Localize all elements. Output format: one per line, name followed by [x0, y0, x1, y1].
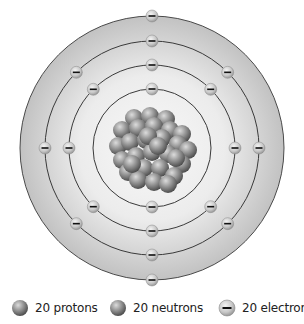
- neutron-icon: [109, 299, 127, 317]
- electron-icon: [87, 201, 99, 213]
- nucleon-sphere: [129, 171, 147, 189]
- electron-icon: [63, 142, 75, 154]
- legend-item-electrons: 20 electrons: [218, 298, 304, 318]
- electron-icon: [205, 83, 217, 95]
- electron-icon: [253, 142, 265, 154]
- electron-icon: [205, 201, 217, 213]
- legend-item-protons: 20 protons: [11, 298, 98, 318]
- electron-icon: [146, 249, 158, 261]
- electron-icon: [218, 299, 236, 317]
- legend-label-electrons: 20 electrons: [242, 301, 304, 315]
- electron-icon: [222, 218, 234, 230]
- legend-label-protons: 20 protons: [35, 301, 98, 315]
- electron-icon: [39, 142, 51, 154]
- electron-icon: [146, 59, 158, 71]
- legend-item-neutrons: 20 neutrons: [109, 298, 203, 318]
- electron-icon: [70, 66, 82, 78]
- nucleon-sphere: [123, 155, 141, 173]
- electron-icon: [146, 35, 158, 47]
- electron-icon: [146, 10, 158, 22]
- nucleon-sphere: [159, 175, 177, 193]
- electron-icon: [146, 274, 158, 286]
- electron-icon: [146, 83, 158, 95]
- electron-icon: [87, 83, 99, 95]
- atom-diagram: [0, 0, 304, 290]
- electron-icon: [146, 201, 158, 213]
- electron-icon: [70, 218, 82, 230]
- electron-icon: [229, 142, 241, 154]
- nucleon-sphere: [149, 137, 167, 155]
- legend-label-neutrons: 20 neutrons: [133, 301, 203, 315]
- electron-icon: [146, 225, 158, 237]
- nucleon-sphere: [167, 149, 185, 167]
- electron-icon: [222, 66, 234, 78]
- proton-icon: [11, 299, 29, 317]
